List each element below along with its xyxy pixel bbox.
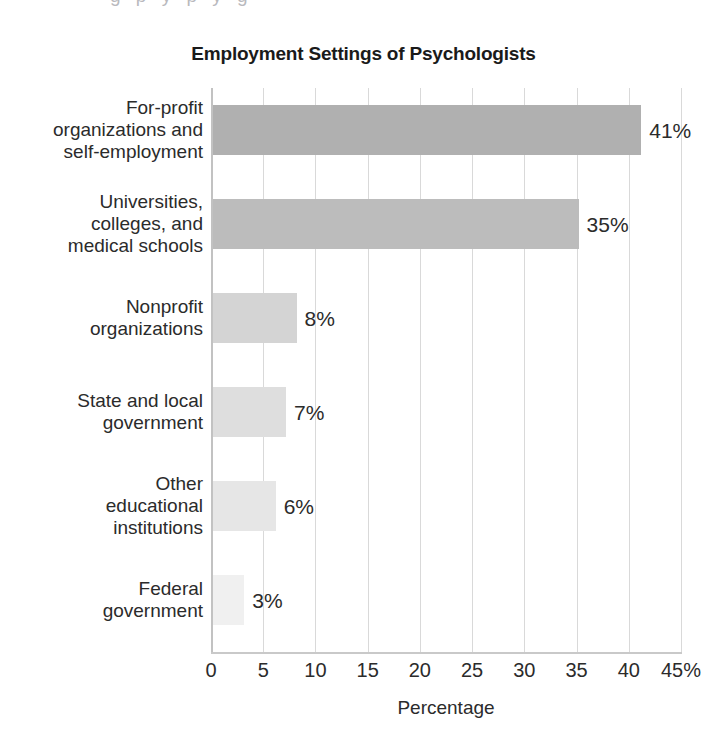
category-label: Universities,colleges, andmedical school… <box>13 191 203 257</box>
bar-value-label: 3% <box>252 590 282 611</box>
category-label-line: government <box>13 412 203 434</box>
category-label: Nonprofitorganizations <box>13 296 203 340</box>
x-tick-label: 35 <box>565 659 587 682</box>
chart-title: Employment Settings of Psychologists <box>0 43 727 65</box>
bar <box>213 387 286 437</box>
category-label-line: educational <box>13 495 203 517</box>
bar-value-label: 6% <box>284 496 314 517</box>
x-tick-label: 20 <box>409 659 431 682</box>
bar <box>213 575 244 625</box>
x-tick-label: 0 <box>205 659 216 682</box>
page-top-text-sliver: g p y p y g <box>0 0 727 12</box>
bar <box>213 481 276 531</box>
category-label-line: Universities, <box>13 191 203 213</box>
bar-value-label: 35% <box>587 214 629 235</box>
category-label-line: government <box>13 600 203 622</box>
x-tick-label: 15 <box>357 659 379 682</box>
bar <box>213 105 641 155</box>
category-label-line: State and local <box>13 390 203 412</box>
grid-line-15 <box>368 88 369 652</box>
y-axis-line <box>211 88 213 652</box>
category-label-line: organizations <box>13 318 203 340</box>
category-label-line: organizations and <box>13 119 203 141</box>
x-axis-baseline <box>211 652 682 654</box>
category-label-line: self-employment <box>13 141 203 163</box>
category-label-line: medical schools <box>13 235 203 257</box>
x-tick-label: 5 <box>258 659 269 682</box>
bar-value-label: 7% <box>294 402 324 423</box>
x-tick-label: 10 <box>304 659 326 682</box>
x-tick-label: 30 <box>513 659 535 682</box>
top-sliver-text: g p y p y g <box>110 0 253 7</box>
grid-line-35 <box>577 88 578 652</box>
category-label: For-profitorganizations andself-employme… <box>13 97 203 163</box>
bar-value-label: 41% <box>649 120 691 141</box>
bar <box>213 199 579 249</box>
x-tick-label: 40 <box>618 659 640 682</box>
grid-line-30 <box>524 88 525 652</box>
category-label-line: Other <box>13 473 203 495</box>
grid-line-45 <box>681 88 682 652</box>
category-label-line: Nonprofit <box>13 296 203 318</box>
grid-line-10 <box>315 88 316 652</box>
grid-line-25 <box>472 88 473 652</box>
plot-area: 41%35%8%7%6%3% <box>211 88 681 652</box>
category-label-line: For-profit <box>13 97 203 119</box>
x-axis-tick-labels: 051015202530354045% <box>211 659 691 689</box>
grid-line-5 <box>263 88 264 652</box>
grid-line-40 <box>629 88 630 652</box>
x-axis-title: Percentage <box>211 697 681 719</box>
category-label-line: Federal <box>13 578 203 600</box>
category-label: Othereducationalinstitutions <box>13 473 203 539</box>
category-axis-labels: For-profitorganizations andself-employme… <box>10 88 203 652</box>
bar <box>213 293 297 343</box>
bar-value-label: 8% <box>305 308 335 329</box>
x-tick-label: 45% <box>661 659 701 682</box>
grid-line-20 <box>420 88 421 652</box>
category-label-line: colleges, and <box>13 213 203 235</box>
x-tick-label: 25 <box>461 659 483 682</box>
category-label: Federalgovernment <box>13 578 203 622</box>
category-label: State and localgovernment <box>13 390 203 434</box>
category-label-line: institutions <box>13 517 203 539</box>
